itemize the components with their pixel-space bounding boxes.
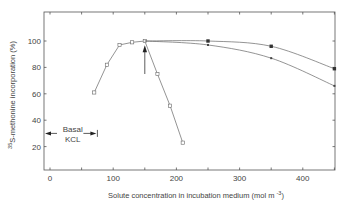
series-line bbox=[94, 41, 182, 143]
open-square-marker bbox=[156, 72, 159, 75]
filled-square-marker bbox=[206, 39, 209, 42]
y-axis-label: 35S-methonine incorporation (%) bbox=[7, 41, 17, 149]
small-filled-marker bbox=[207, 44, 209, 46]
series-3 bbox=[145, 41, 336, 87]
arrow-up-icon bbox=[143, 45, 147, 52]
y-tick-label: 80 bbox=[32, 63, 41, 72]
x-tick-label: 100 bbox=[107, 174, 121, 183]
annotation-label-line1: Basal bbox=[63, 125, 83, 134]
plot-frame bbox=[44, 12, 335, 170]
series-curve bbox=[145, 41, 335, 86]
plot-border bbox=[44, 12, 335, 170]
chart: 0100200300400 20406080100 BasalKCL Solut… bbox=[0, 0, 352, 205]
y-tick-label: 20 bbox=[32, 143, 41, 152]
x-tick-label: 200 bbox=[170, 174, 184, 183]
open-square-marker bbox=[105, 63, 108, 66]
series-curve bbox=[145, 41, 335, 69]
x-axis-ticks: 0100200300400 bbox=[48, 12, 335, 183]
x-tick-label: 400 bbox=[296, 174, 310, 183]
annotations: BasalKCL bbox=[45, 45, 147, 144]
y-tick-label: 40 bbox=[32, 116, 41, 125]
x-axis-label: Solute concentration in incubation mediu… bbox=[108, 190, 284, 200]
small-filled-marker bbox=[333, 85, 335, 87]
filled-square-marker bbox=[333, 67, 336, 70]
series-1 bbox=[93, 39, 185, 144]
annotation-label-line2: KCL bbox=[65, 135, 81, 144]
open-square-marker bbox=[168, 104, 171, 107]
x-tick-label: 300 bbox=[233, 174, 247, 183]
right-arrow-icon bbox=[90, 131, 96, 135]
y-tick-label: 60 bbox=[32, 90, 41, 99]
data-series bbox=[93, 39, 336, 144]
x-tick-label: 0 bbox=[48, 174, 53, 183]
filled-square-marker bbox=[270, 45, 273, 48]
series-2 bbox=[145, 39, 336, 70]
left-arrow-icon bbox=[45, 131, 51, 135]
y-tick-label: 100 bbox=[28, 37, 42, 46]
small-filled-marker bbox=[270, 57, 272, 59]
open-square-marker bbox=[93, 91, 96, 94]
open-square-marker bbox=[181, 141, 184, 144]
open-square-marker bbox=[131, 41, 134, 44]
open-square-marker bbox=[118, 43, 121, 46]
